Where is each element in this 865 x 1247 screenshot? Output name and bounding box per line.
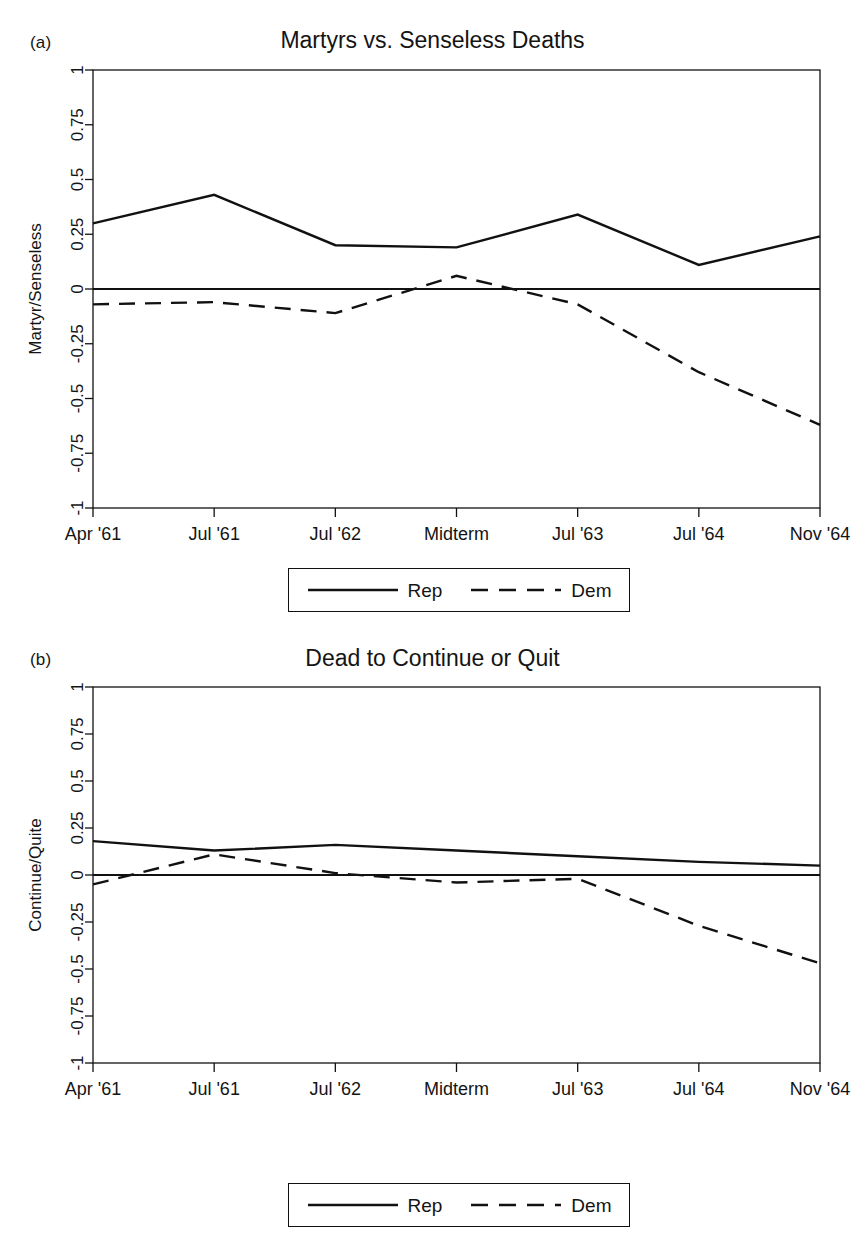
y-tick-label: 1 xyxy=(68,682,87,691)
legend-dashed-line-icon xyxy=(470,1202,562,1208)
y-tick-label: 0.25 xyxy=(68,811,87,844)
series-line-rep xyxy=(93,841,820,865)
x-tick-label: Jul '62 xyxy=(310,524,361,544)
x-tick-label: Midterm xyxy=(424,1079,489,1099)
panel-b-plot-area: 10.750.50.250-0.25-0.5-0.75-1Apr '61Jul … xyxy=(0,623,865,1183)
y-tick-label: 1 xyxy=(68,65,87,74)
x-tick-label: Nov '64 xyxy=(790,1079,850,1099)
chart-panel-b: (b) Dead to Continue or Quit Continue/Qu… xyxy=(0,623,865,1247)
x-tick-label: Jul '61 xyxy=(188,1079,239,1099)
legend-item-rep: Rep xyxy=(293,1196,457,1215)
legend-item-dem: Dem xyxy=(456,1196,625,1215)
panel-a-legend: Rep Dem xyxy=(288,568,630,612)
legend-label-rep: Rep xyxy=(408,581,443,600)
y-tick-label: -1 xyxy=(68,500,87,515)
x-tick-label: Jul '62 xyxy=(310,1079,361,1099)
series-line-dem xyxy=(93,854,820,963)
y-tick-label: -0.5 xyxy=(68,384,87,413)
x-tick-label: Jul '63 xyxy=(552,1079,603,1099)
y-tick-label: -0.75 xyxy=(68,434,87,473)
y-tick-label: 0.75 xyxy=(68,108,87,141)
legend-item-rep: Rep xyxy=(293,581,457,600)
legend-dashed-line-icon xyxy=(470,587,562,593)
x-tick-label: Apr '61 xyxy=(65,524,121,544)
x-tick-label: Jul '64 xyxy=(673,1079,724,1099)
y-tick-label: -0.5 xyxy=(68,954,87,983)
x-tick-label: Jul '63 xyxy=(552,524,603,544)
y-tick-label: -0.25 xyxy=(68,324,87,363)
y-tick-label: 0.25 xyxy=(68,218,87,251)
panel-a-plot-area: 10.750.50.250-0.25-0.5-0.75-1Apr '61Jul … xyxy=(0,0,865,560)
legend-solid-line-icon xyxy=(307,1202,399,1208)
x-tick-label: Nov '64 xyxy=(790,524,850,544)
y-tick-label: -1 xyxy=(68,1055,87,1070)
legend-label-dem: Dem xyxy=(571,1196,611,1215)
y-tick-label: 0 xyxy=(68,870,87,879)
panel-b-legend: Rep Dem xyxy=(288,1183,630,1227)
figure-two-panel-line-charts: (a) Martyrs vs. Senseless Deaths Martyr/… xyxy=(0,0,865,1247)
x-tick-label: Midterm xyxy=(424,524,489,544)
series-line-rep xyxy=(93,195,820,265)
y-tick-label: 0.75 xyxy=(68,717,87,750)
y-tick-label: 0.5 xyxy=(68,769,87,793)
chart-panel-a: (a) Martyrs vs. Senseless Deaths Martyr/… xyxy=(0,0,865,623)
y-tick-label: -0.75 xyxy=(68,997,87,1036)
legend-solid-line-icon xyxy=(307,587,399,593)
legend-item-dem: Dem xyxy=(456,581,625,600)
y-tick-label: 0 xyxy=(68,284,87,293)
x-tick-label: Jul '64 xyxy=(673,524,724,544)
legend-label-dem: Dem xyxy=(571,581,611,600)
series-line-dem xyxy=(93,276,820,425)
legend-label-rep: Rep xyxy=(408,1196,443,1215)
x-tick-label: Jul '61 xyxy=(188,524,239,544)
y-tick-label: -0.25 xyxy=(68,903,87,942)
y-tick-label: 0.5 xyxy=(68,168,87,192)
x-tick-label: Apr '61 xyxy=(65,1079,121,1099)
